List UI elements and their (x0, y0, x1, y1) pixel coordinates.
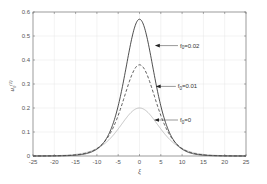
y-tick-label: 0.5 (22, 33, 31, 39)
x-tick-label: 15 (200, 159, 207, 165)
y-tick-label: 0.1 (22, 129, 31, 135)
annotation-label: f0=0 (180, 117, 192, 125)
x-axis-label: ξ (138, 167, 141, 175)
x-tick-label: 5 (159, 159, 163, 165)
x-tick-label: -5 (116, 159, 122, 165)
x-tick-label: 0 (138, 159, 142, 165)
y-tick-label: 0.3 (22, 81, 31, 87)
y-tick-label: 0.4 (22, 57, 31, 63)
x-tick-label: 25 (243, 159, 250, 165)
annotation-label: f0=0.02 (180, 43, 200, 51)
y-tick-label: 0.6 (22, 9, 31, 15)
x-tick-label: -10 (93, 159, 102, 165)
x-tick-label: 10 (179, 159, 186, 165)
x-tick-label: -20 (50, 159, 59, 165)
x-tick-label: -15 (71, 159, 80, 165)
y-axis-label: u0(1) (8, 80, 17, 91)
x-tick-label: 20 (221, 159, 228, 165)
axis-ticks: -25-20-15-10-5051015202500.10.20.30.40.5… (22, 9, 250, 165)
grid-lines (33, 12, 246, 156)
x-tick-label: -25 (29, 159, 38, 165)
chart: -25-20-15-10-5051015202500.10.20.30.40.5… (0, 0, 267, 184)
y-tick-label: 0.2 (22, 105, 31, 111)
arrowhead-icon (155, 44, 160, 48)
annotation-label: f0=0.01 (178, 83, 198, 91)
